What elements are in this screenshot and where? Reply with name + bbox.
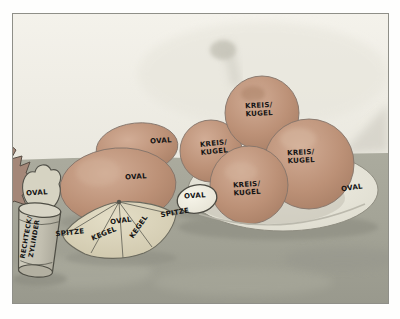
fruit-kugel-bottom	[210, 146, 288, 224]
painting-canvas: OVAL RECHTECK/ ZYLINDER SPITZE KEGEL OVA…	[12, 13, 389, 304]
fruit-highlight	[76, 158, 120, 186]
still-life-illustration	[13, 14, 388, 303]
fruit-highlight	[225, 162, 257, 182]
fruit-highlight	[280, 128, 316, 150]
artwork-scan: OVAL RECHTECK/ ZYLINDER SPITZE KEGEL OVA…	[0, 0, 400, 319]
table-mottle	[153, 268, 333, 296]
lemon-apex	[117, 200, 121, 204]
fruit-dimple	[241, 86, 265, 102]
